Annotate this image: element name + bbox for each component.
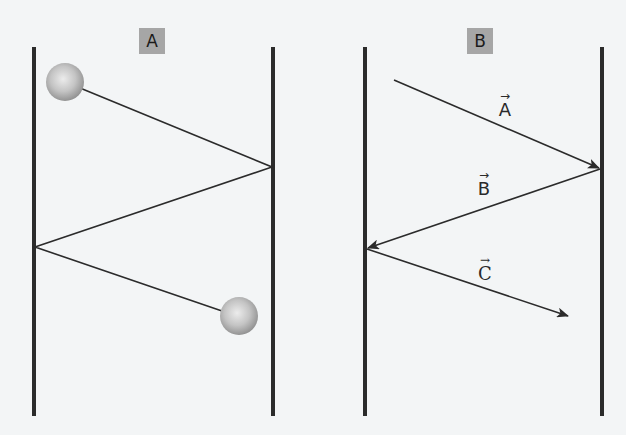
vector-c-symbol: C [478,263,492,284]
diagram-figure: A B → A → B → C [0,0,626,435]
panel-a-ball-path [35,88,272,311]
vector-c-arrow [367,249,568,316]
panel-b-label: B [467,28,493,54]
ball-start-icon [46,63,84,101]
panel-a-label: A [139,28,165,54]
diagram-canvas [0,0,626,435]
ball-end-icon [220,297,258,335]
vector-a-label: → A [493,92,517,119]
vector-b-label: → B [472,171,496,198]
panel-a [34,47,273,416]
vector-a-symbol: A [499,99,511,120]
vector-c-label: → C [473,256,497,283]
panel-b [365,47,602,416]
vector-b-symbol: B [478,178,490,199]
